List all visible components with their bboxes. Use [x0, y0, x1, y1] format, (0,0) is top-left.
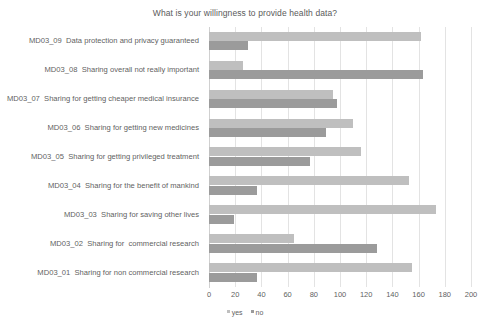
legend-swatch-icon — [227, 310, 230, 313]
legend-item-yes[interactable]: yes — [227, 308, 243, 316]
chart-title: What is your willingness to provide heal… — [0, 8, 490, 18]
legend-swatch-icon — [251, 310, 254, 313]
bar-yes — [209, 205, 436, 214]
bar-yes — [209, 90, 333, 99]
chart-legend: yesno — [0, 308, 490, 316]
y-axis-label: MD03_04 Sharing for the benefit of manki… — [0, 181, 199, 190]
y-axis-category-labels: MD03_09 Data protection and privacy guar… — [0, 27, 205, 287]
y-axis-label: MD03_08 Sharing overall not really impor… — [0, 65, 199, 74]
y-axis-label: MD03_01 Sharing for non commercial resea… — [0, 268, 199, 277]
bar-group — [209, 85, 471, 114]
bar-no — [209, 273, 257, 282]
y-axis-label: MD03_05 Sharing for getting privileged t… — [0, 152, 199, 161]
x-axis-tick-labels: 020406080100120140160180200 — [0, 290, 490, 302]
plot-area — [209, 27, 471, 287]
y-axis-label: MD03_07 Sharing for getting cheaper medi… — [0, 94, 199, 103]
bar-group — [209, 171, 471, 200]
bar-group — [209, 229, 471, 258]
bar-no — [209, 70, 423, 79]
bar-group — [209, 143, 471, 172]
y-axis-label: MD03_06 Sharing for getting new medicine… — [0, 123, 199, 132]
bar-group — [209, 56, 471, 85]
bar-group — [209, 200, 471, 229]
bar-group — [209, 114, 471, 143]
y-axis-label: MD03_03 Sharing for saving other lives — [0, 210, 199, 219]
y-axis-label: MD03_02 Sharing for commercial research — [0, 239, 199, 248]
bar-chart: What is your willingness to provide heal… — [0, 0, 490, 334]
gridline-x-200 — [471, 27, 472, 287]
bar-no — [209, 244, 377, 253]
bar-yes — [209, 176, 409, 185]
bar-group — [209, 27, 471, 56]
bar-yes — [209, 263, 412, 272]
bar-group — [209, 258, 471, 287]
legend-label: yes — [232, 309, 243, 316]
bar-yes — [209, 119, 353, 128]
bar-yes — [209, 32, 421, 41]
bar-no — [209, 41, 248, 50]
bar-no — [209, 99, 337, 108]
bar-no — [209, 128, 326, 137]
legend-item-no[interactable]: no — [251, 308, 264, 316]
bar-yes — [209, 61, 243, 70]
x-axis-tick-200: 200 — [451, 290, 490, 299]
bar-yes — [209, 147, 361, 156]
bar-no — [209, 186, 257, 195]
bar-no — [209, 157, 310, 166]
bar-no — [209, 215, 234, 224]
y-axis-label: MD03_09 Data protection and privacy guar… — [0, 36, 199, 45]
legend-label: no — [256, 309, 264, 316]
bar-yes — [209, 234, 294, 243]
